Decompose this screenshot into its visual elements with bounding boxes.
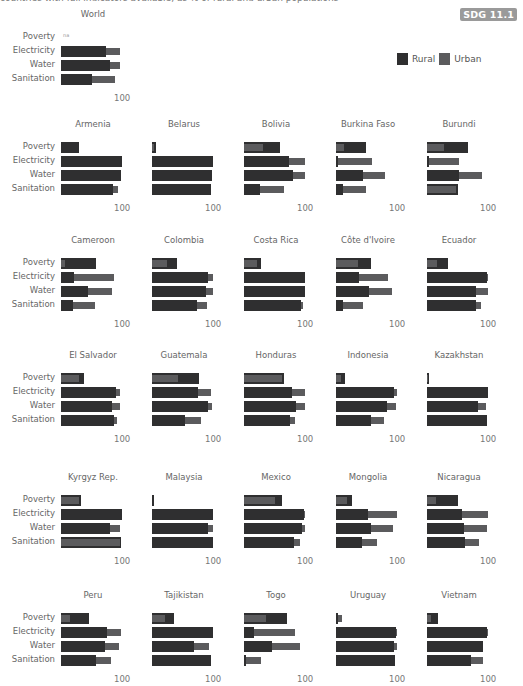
- axis-tick-100: 100: [297, 203, 313, 213]
- urban-bar: [244, 615, 266, 622]
- panel-title: Mongolia: [322, 472, 414, 482]
- category-label-poverty: Poverty: [23, 257, 55, 267]
- axis-tick-100: 100: [480, 319, 496, 329]
- category-label-poverty: Poverty: [23, 31, 55, 41]
- na-note: na: [63, 32, 69, 38]
- rural-bar: [427, 509, 462, 520]
- urban-bar: [61, 375, 79, 382]
- axis-tick-100: 100: [114, 319, 130, 329]
- axis-tick-100: 100: [114, 674, 130, 684]
- category-label-sanitation: Sanitation: [12, 73, 55, 83]
- panel-honduras: Honduras100: [244, 350, 336, 460]
- rural-bar: [244, 537, 294, 548]
- rural-bar: [152, 286, 206, 297]
- rural-bar: [244, 300, 301, 311]
- axis-tick-100: 100: [205, 434, 221, 444]
- category-label-electricity: Electricity: [13, 45, 55, 55]
- rural-bar: [336, 401, 387, 412]
- panel-title: Nicaragua: [413, 472, 505, 482]
- rural-bar: [61, 184, 113, 195]
- panel-burkina-faso: Burkina Faso100: [336, 119, 428, 229]
- category-label-electricity: Electricity: [13, 508, 55, 518]
- rural-bar: [244, 272, 305, 283]
- rural-bar: [427, 537, 465, 548]
- rural-bar: [61, 170, 121, 181]
- category-label-sanitation: Sanitation: [12, 299, 55, 309]
- legend-item-urban: Urban: [439, 53, 481, 65]
- rural-bar: [61, 272, 74, 283]
- axis-tick-100: 100: [114, 203, 130, 213]
- rural-bar: [336, 613, 338, 624]
- rural-bar: [61, 627, 107, 638]
- panel-title: Kyrgyz Rep.: [47, 472, 139, 482]
- rural-bar: [61, 401, 112, 412]
- rural-bar: [427, 170, 459, 181]
- urban-bar: [244, 144, 263, 151]
- urban-swatch-icon: [439, 53, 450, 65]
- urban-bar: [427, 186, 456, 193]
- rural-bar: [61, 46, 106, 57]
- panel-title: Honduras: [230, 350, 322, 360]
- rural-bar: [61, 156, 122, 167]
- urban-bar: [244, 260, 257, 267]
- urban-bar: [427, 158, 459, 165]
- axis-tick-100: 100: [205, 556, 221, 566]
- panel-title: Colombia: [138, 235, 230, 245]
- panel-title: Indonesia: [322, 350, 414, 360]
- panel-world: WorldPovertynaElectricityWaterSanitation…: [61, 9, 153, 119]
- panel-title: El Salvador: [47, 350, 139, 360]
- panel-tajikistan: Tajikistan100: [152, 590, 244, 686]
- rural-bar: [152, 495, 154, 506]
- panel-peru: PeruPovertyElectricityWaterSanitation100: [61, 590, 153, 686]
- rural-bar: [336, 509, 368, 520]
- panel-armenia: ArmeniaPovertyElectricityWaterSanitation…: [61, 119, 153, 229]
- rural-bar: [427, 655, 471, 666]
- panel-el-salvador: El SalvadorPovertyElectricityWaterSanita…: [61, 350, 153, 460]
- axis-tick-100: 100: [389, 674, 405, 684]
- axis-tick-100: 100: [114, 93, 130, 103]
- rural-bar: [336, 523, 371, 534]
- urban-bar: [427, 497, 436, 504]
- axis-tick-100: 100: [480, 434, 496, 444]
- rural-bar: [152, 523, 208, 534]
- axis-tick-100: 100: [389, 203, 405, 213]
- rural-bar: [427, 641, 483, 652]
- rural-bar: [427, 415, 487, 426]
- axis-tick-100: 100: [114, 434, 130, 444]
- axis-tick-100: 100: [114, 556, 130, 566]
- urban-bar: [336, 144, 344, 151]
- rural-bar: [427, 300, 476, 311]
- rural-bar: [427, 523, 464, 534]
- axis-tick-100: 100: [480, 556, 496, 566]
- category-label-poverty: Poverty: [23, 612, 55, 622]
- rural-bar: [427, 387, 488, 398]
- rural-bar: [336, 300, 343, 311]
- category-label-sanitation: Sanitation: [12, 183, 55, 193]
- axis-tick-100: 100: [389, 319, 405, 329]
- panel-title: Burkina Faso: [322, 119, 414, 129]
- rural-bar: [244, 401, 296, 412]
- urban-bar: [336, 497, 347, 504]
- axis-tick-100: 100: [297, 319, 313, 329]
- panel-title: Costa Rica: [230, 235, 322, 245]
- rural-bar: [336, 387, 394, 398]
- rural-bar: [152, 415, 185, 426]
- category-label-water: Water: [30, 285, 55, 295]
- rural-bar: [61, 655, 96, 666]
- category-label-water: Water: [30, 522, 55, 532]
- rural-bar: [336, 184, 343, 195]
- legend-item-rural: Rural: [397, 53, 435, 65]
- panel-title: Malaysia: [138, 472, 230, 482]
- rural-bar: [152, 401, 208, 412]
- legend: Rural Urban: [397, 53, 486, 65]
- legend-label-urban: Urban: [454, 54, 481, 64]
- panel-title: Armenia: [47, 119, 139, 129]
- urban-bar: [427, 615, 431, 622]
- rural-bar: [61, 509, 122, 520]
- urban-bar: [244, 497, 275, 504]
- panel-burundi: Burundi100: [427, 119, 519, 229]
- rural-bar: [244, 509, 304, 520]
- urban-bar: [427, 144, 444, 151]
- rural-bar: [244, 523, 302, 534]
- axis-tick-100: 100: [205, 319, 221, 329]
